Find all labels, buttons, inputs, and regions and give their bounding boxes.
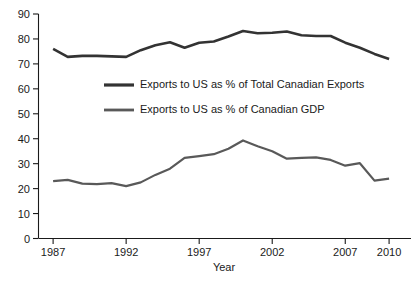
y-tick-label: 70 — [18, 58, 30, 70]
x-tick-label: 1992 — [114, 246, 138, 258]
y-tick-label: 80 — [18, 33, 30, 45]
x-tick-label: 2007 — [333, 246, 357, 258]
line-chart: 0102030405060708090 19871992199720022007… — [0, 0, 418, 281]
series-line-1 — [53, 31, 389, 59]
y-tick-label: 10 — [18, 208, 30, 220]
y-tick-label: 60 — [18, 83, 30, 95]
x-axis: 198719921997200220072010 — [39, 239, 412, 259]
x-tick-group: 198719921997200220072010 — [41, 239, 401, 259]
legend-label-1: Exports to US as % of Total Canadian Exp… — [140, 78, 365, 90]
x-tick-label: 1997 — [187, 246, 211, 258]
legend-label-2: Exports to US as % of Canadian GDP — [140, 103, 325, 115]
y-tick-label: 20 — [18, 183, 30, 195]
x-tick-label: 2002 — [260, 246, 284, 258]
y-tick-label: 50 — [18, 108, 30, 120]
y-tick-group: 0102030405060708090 — [18, 8, 39, 245]
y-tick-label: 40 — [18, 133, 30, 145]
x-axis-title: Year — [213, 261, 236, 273]
y-axis: 0102030405060708090 — [18, 8, 39, 245]
x-tick-label: 2010 — [377, 246, 401, 258]
y-tick-label: 30 — [18, 158, 30, 170]
series-line-2 — [53, 140, 389, 186]
chart-canvas: 0102030405060708090 19871992199720022007… — [0, 0, 418, 281]
y-tick-label: 90 — [18, 8, 30, 20]
chart-legend: Exports to US as % of Total Canadian Exp… — [104, 78, 365, 115]
y-tick-label: 0 — [24, 233, 30, 245]
x-tick-label: 1987 — [41, 246, 65, 258]
